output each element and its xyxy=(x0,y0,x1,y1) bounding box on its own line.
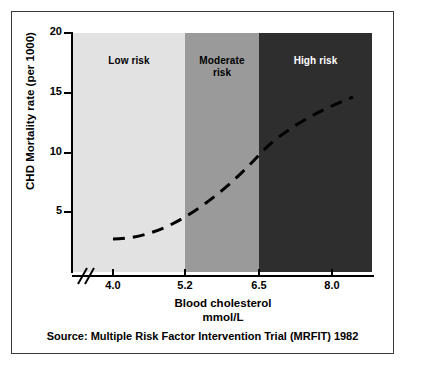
x-axis-label: Blood cholesterol mmol/L xyxy=(72,296,374,324)
risk-band-high-label-line1: High risk xyxy=(259,55,372,67)
x-axis-label-line2: mmol/L xyxy=(72,310,374,324)
y-tick-label-10: 10 xyxy=(36,145,62,157)
x-tick-4-0 xyxy=(112,269,114,276)
x-tick-6-5 xyxy=(258,269,260,276)
x-tick-8-0 xyxy=(331,269,333,276)
y-tick-5 xyxy=(64,211,73,213)
x-tick-label-4-0: 4.0 xyxy=(93,279,133,291)
risk-band-moderate-label-line2: risk xyxy=(185,67,259,79)
x-axis-line xyxy=(72,275,374,278)
y-tick-label-20: 20 xyxy=(36,25,62,37)
x-tick-label-8-0: 8.0 xyxy=(312,279,352,291)
risk-band-low-label-line1: Low risk xyxy=(82,55,176,67)
y-tick-15 xyxy=(64,92,73,94)
risk-band-high-label: High risk xyxy=(259,55,372,67)
risk-band-low xyxy=(72,33,185,272)
x-tick-5-2 xyxy=(184,269,186,276)
y-tick-label-15: 15 xyxy=(36,85,62,97)
x-tick-label-5-2: 5.2 xyxy=(165,279,205,291)
y-tick-label-5: 5 xyxy=(36,204,62,216)
y-tick-10 xyxy=(64,152,73,154)
y-axis-label: CHD Mortality rate (per 1000) xyxy=(24,11,36,211)
risk-band-moderate-label: Moderate risk xyxy=(185,55,259,79)
risk-band-high xyxy=(259,33,372,272)
risk-band-low-label: Low risk xyxy=(82,55,176,67)
chart-figure: Low risk Moderate risk High risk 20 15 1… xyxy=(0,0,421,380)
x-axis-label-line1: Blood cholesterol xyxy=(72,296,374,310)
plot-area: Low risk Moderate risk High risk xyxy=(72,33,372,272)
risk-band-moderate-label-line1: Moderate xyxy=(185,55,259,67)
source-caption: Source: Multiple Risk Factor Interventio… xyxy=(16,330,389,342)
y-tick-20 xyxy=(64,32,73,34)
x-tick-label-6-5: 6.5 xyxy=(239,279,279,291)
